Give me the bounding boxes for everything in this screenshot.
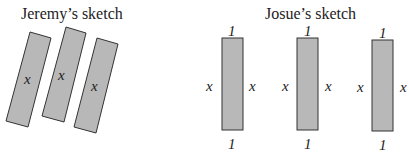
sketch-diagram: x x x 1 1 x x 1 1 x x 1 1 x x (0, 0, 409, 153)
josue-rect-3-top: 1 (379, 25, 387, 41)
josue-rect-2-right: x (324, 78, 332, 94)
jeremy-rect-1-label: x (23, 71, 31, 87)
josue-rect-2: 1 1 x x (281, 23, 332, 152)
josue-rect-3: 1 1 x x (356, 25, 407, 153)
josue-rect-1-bottom: 1 (228, 136, 236, 152)
josue-rect-2-top: 1 (304, 23, 312, 39)
josue-rect-1-right: x (248, 78, 256, 94)
jeremy-rect-3-label: x (90, 78, 98, 94)
josue-rect-1-top: 1 (228, 23, 236, 39)
josue-rect-3-left: x (356, 79, 364, 95)
josue-rect-3-bottom: 1 (379, 137, 387, 153)
josue-rect-2-bottom: 1 (304, 136, 312, 152)
jeremy-rect-2-label: x (57, 67, 65, 83)
josue-rect-3-right: x (399, 79, 407, 95)
josue-rect-2-left: x (281, 78, 289, 94)
josue-rect-1: 1 1 x x (205, 23, 256, 152)
josue-rect-1-left: x (205, 78, 213, 94)
